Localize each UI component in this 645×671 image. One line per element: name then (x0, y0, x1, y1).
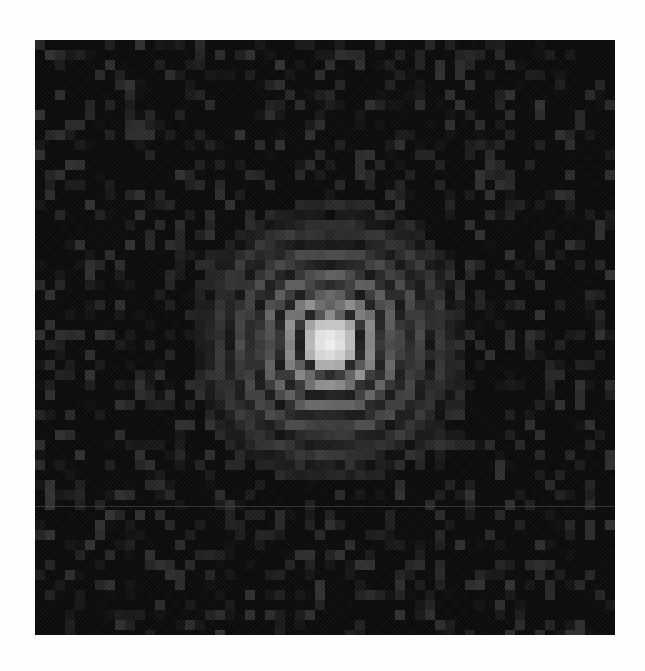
pixel-block (455, 400, 465, 410)
pixel-block (85, 140, 95, 150)
pixel-block (415, 270, 425, 280)
pixel-block (325, 430, 335, 440)
pixel-block (495, 560, 505, 570)
pixel-block (375, 100, 385, 110)
pixel-block (545, 260, 555, 270)
pixel-block (205, 480, 215, 490)
pixel-block (395, 380, 405, 390)
pixel-block (605, 150, 615, 160)
pixel-block (265, 290, 275, 300)
pixel-block (265, 440, 275, 450)
pixel-block (575, 630, 585, 635)
pixel-block (405, 70, 415, 80)
pixel-block (385, 400, 395, 410)
pixel-block (335, 270, 345, 280)
pixel-block (355, 310, 365, 320)
pixel-block (35, 280, 45, 290)
pixel-block (455, 340, 465, 350)
pixel-block (305, 570, 315, 580)
pixel-block (295, 240, 305, 250)
pixel-block (445, 400, 455, 410)
pixel-block (365, 310, 375, 320)
pixel-block (565, 200, 575, 210)
pixel-block (265, 590, 275, 600)
pixel-block (315, 380, 325, 390)
pixel-block (145, 390, 155, 400)
pixel-block (195, 90, 205, 100)
pixel-block (145, 440, 155, 450)
pixel-block (365, 550, 375, 560)
pixel-block (85, 540, 95, 550)
pixel-block (65, 160, 75, 170)
pixel-block (45, 490, 55, 500)
pixel-block (355, 380, 365, 390)
pixel-block (195, 290, 205, 300)
pixel-block (395, 420, 405, 430)
pixel-block (345, 280, 355, 290)
pixel-block (485, 140, 495, 150)
pixel-block (335, 320, 345, 330)
pixel-block (285, 350, 295, 360)
pixel-block (85, 110, 95, 120)
pixel-block (325, 60, 335, 70)
pixel-block (595, 100, 605, 110)
pixel-block (105, 250, 115, 260)
pixel-block (295, 40, 305, 50)
pixel-block (145, 200, 155, 210)
pixel-block (375, 90, 385, 100)
pixel-block (385, 420, 395, 430)
pixel-block (275, 610, 285, 620)
pixel-block (285, 550, 295, 560)
pixel-block (295, 380, 305, 390)
pixel-block (375, 300, 385, 310)
pixel-block (495, 510, 505, 520)
pixel-block (275, 370, 285, 380)
pixel-block (345, 440, 355, 450)
pixel-block (365, 250, 375, 260)
pixel-block (125, 590, 135, 600)
pixel-block (215, 190, 225, 200)
pixel-block (585, 90, 595, 100)
pixel-block (415, 350, 425, 360)
pixel-block (335, 40, 345, 50)
pixel-block (305, 440, 315, 450)
pixel-block (285, 250, 295, 260)
pixel-block (45, 360, 55, 370)
pixel-block (515, 520, 525, 530)
pixel-block (265, 210, 275, 220)
pixel-block (235, 230, 245, 240)
pixel-block (315, 330, 325, 340)
pixel-block (115, 430, 125, 440)
pixel-block (65, 180, 75, 190)
pixel-block (365, 390, 375, 400)
pixel-block (585, 520, 595, 530)
pixel-block (395, 140, 405, 150)
pixel-block (585, 420, 595, 430)
pixel-block (95, 360, 105, 370)
pixel-block (315, 110, 325, 120)
pixel-block (185, 380, 195, 390)
pixel-block (395, 480, 405, 490)
pixel-block (125, 340, 135, 350)
pixel-block (595, 590, 605, 600)
pixel-block (355, 390, 365, 400)
pixel-block (285, 240, 295, 250)
pixel-block (255, 420, 265, 430)
pixel-block (195, 300, 205, 310)
pixel-block (255, 350, 265, 360)
pixel-block (135, 130, 145, 140)
pixel-block (325, 420, 335, 430)
pixel-block (445, 110, 455, 120)
pixel-block (515, 610, 525, 620)
pixel-block (275, 410, 285, 420)
pixel-block (445, 290, 455, 300)
pixel-block (225, 570, 235, 580)
pixel-block (75, 570, 85, 580)
pixel-block (395, 260, 405, 270)
page-background (0, 0, 645, 671)
pixel-block (555, 470, 565, 480)
pixel-block (165, 40, 175, 50)
pixel-block (495, 570, 505, 580)
pixel-block (105, 510, 115, 520)
pixel-block (245, 360, 255, 370)
